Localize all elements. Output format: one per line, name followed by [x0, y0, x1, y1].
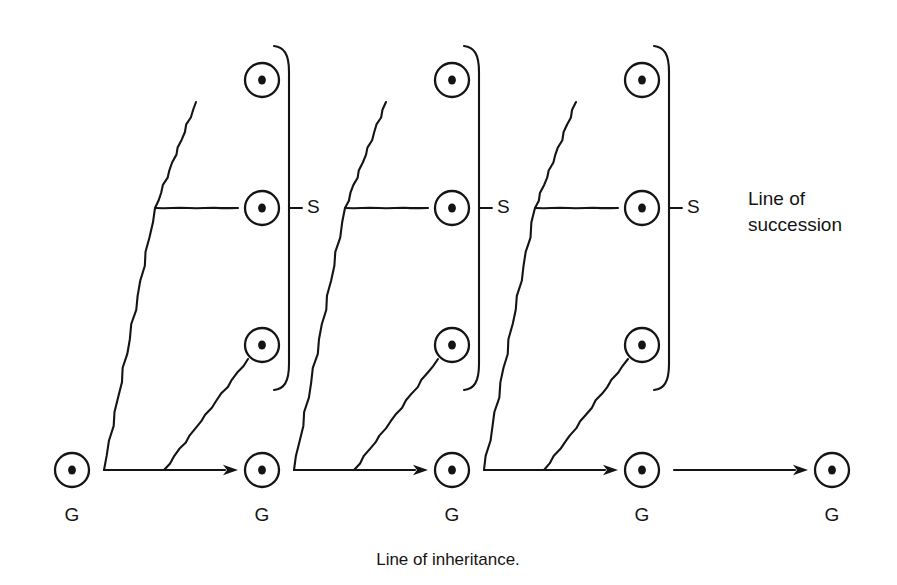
generation-5-node-dot	[828, 465, 836, 474]
succession-group-2-lower-node	[435, 328, 469, 362]
generation-4-node-dot	[638, 465, 646, 474]
succession-group-3-middle-node	[625, 191, 659, 225]
succession-group-1-middle-node	[245, 191, 279, 225]
succession-group-3-lower-node	[625, 328, 659, 362]
succession-group-3-middle-node-dot	[638, 203, 646, 212]
succession-group-1-middle-node-dot	[258, 203, 266, 212]
generation-3-node-dot	[448, 465, 456, 474]
generation-1-node-dot	[68, 465, 76, 474]
succession-group-1-top-node	[245, 63, 279, 97]
generation-5-label: G	[825, 504, 840, 525]
succession-group-1-top-node-dot	[258, 75, 266, 84]
caption-line-of-inheritance: Line of inheritance.	[376, 550, 520, 569]
inheritance-succession-diagram: SSS GGGGG Line of succession Line of inh…	[0, 0, 897, 585]
generation-1-label: G	[65, 504, 80, 525]
generation-4-node	[625, 453, 659, 487]
succession-label-line2: succession	[748, 214, 842, 235]
generation-1-node	[55, 453, 89, 487]
succession-group-2-lower-node-dot	[448, 340, 456, 349]
generation-4-label: G	[635, 504, 650, 525]
succession-group-2-top-node	[435, 63, 469, 97]
generation-3-node	[435, 453, 469, 487]
diagram-root: SSS GGGGG Line of succession Line of inh…	[0, 0, 897, 585]
succession-group-3-top-node-dot	[638, 75, 646, 84]
succession-label-line1: Line of	[748, 188, 806, 209]
succession-group-1-lower-node-dot	[258, 340, 266, 349]
succession-group-3-lower-node-dot	[638, 340, 646, 349]
generation-5-node	[815, 453, 849, 487]
generation-3-label: G	[445, 504, 460, 525]
generation-2-node-dot	[258, 465, 266, 474]
generation-2-node	[245, 453, 279, 487]
succession-group-3-s-label: S	[687, 196, 700, 217]
succession-group-2-middle-node	[435, 191, 469, 225]
succession-group-2-top-node-dot	[448, 75, 456, 84]
succession-group-3-top-node	[625, 63, 659, 97]
succession-group-2-s-label: S	[497, 196, 510, 217]
succession-group-1-lower-node	[245, 328, 279, 362]
succession-group-1-s-label: S	[307, 196, 320, 217]
succession-group-2-middle-node-dot	[448, 203, 456, 212]
generation-2-label: G	[255, 504, 270, 525]
